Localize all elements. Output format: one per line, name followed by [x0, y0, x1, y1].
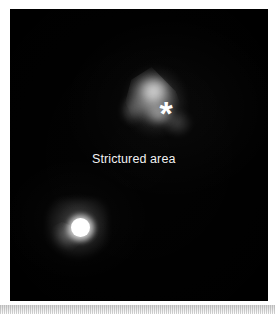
focal-spot-glow: [66, 213, 96, 243]
scan-image-panel: * Strictured area: [10, 9, 268, 301]
scan-edge-artifact-strip: [0, 305, 275, 314]
scan-figure: * Strictured area: [0, 0, 275, 319]
uptake-tail-left: [117, 95, 143, 129]
focal-spot-core: [71, 218, 90, 237]
asterisk-marker-icon: *: [146, 85, 186, 129]
asterisk-glyph: *: [159, 96, 172, 130]
focal-spot-halo: [46, 199, 108, 261]
focal-spot-smear: [49, 221, 83, 255]
strictured-area-label: Strictured area: [92, 152, 175, 166]
focal-hot-spot: [46, 199, 108, 261]
